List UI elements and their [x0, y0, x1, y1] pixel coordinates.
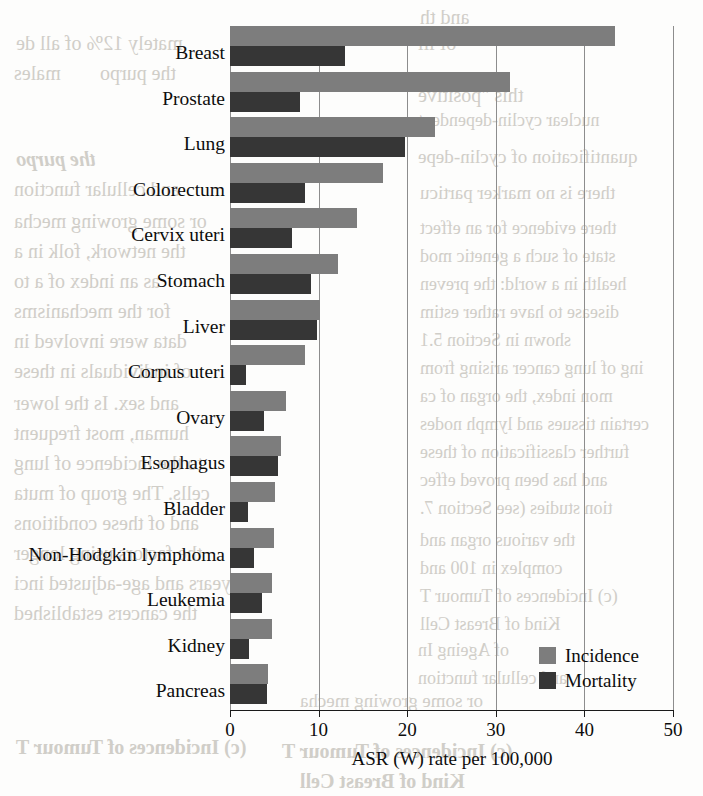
chart-page: and th mately 12% of all de of ill males…: [0, 0, 703, 796]
category-label-esophagus: Esophagus: [141, 453, 226, 473]
bar-mortality-stomach[interactable]: [230, 274, 311, 294]
bar-chart: 01020304050 BreastProstateLungColorectum…: [0, 0, 703, 796]
bar-mortality-pancreas[interactable]: [230, 684, 267, 704]
legend-label-mortality: Mortality: [565, 671, 637, 691]
legend-swatch-incidence-icon: [539, 647, 556, 664]
bar-incidence-bladder[interactable]: [230, 482, 275, 502]
bar-row: Liver: [0, 300, 703, 346]
category-label-prostate: Prostate: [162, 89, 225, 109]
bar-row: Bladder: [0, 482, 703, 528]
legend-swatch-mortality-icon: [539, 672, 556, 689]
bar-row: Prostate: [0, 72, 703, 118]
bar-mortality-breast[interactable]: [230, 46, 345, 66]
bar-row: Non-Hodgkin lymphoma: [0, 528, 703, 574]
bar-incidence-colorectum[interactable]: [230, 163, 383, 183]
bar-incidence-stomach[interactable]: [230, 254, 338, 274]
bar-row: Lung: [0, 117, 703, 163]
bar-mortality-leukemia[interactable]: [230, 593, 262, 613]
x-tick-label-10: 10: [289, 719, 349, 741]
category-label-cervix-uteri: Cervix uteri: [131, 225, 225, 245]
category-label-lung: Lung: [184, 134, 225, 154]
bar-incidence-breast[interactable]: [230, 26, 615, 46]
category-label-stomach: Stomach: [157, 271, 225, 291]
chart-legend: Incidence Mortality: [539, 643, 639, 693]
bar-row: Colorectum: [0, 163, 703, 209]
x-axis-line: [230, 710, 674, 711]
bar-mortality-bladder[interactable]: [230, 502, 248, 522]
bar-incidence-pancreas[interactable]: [230, 664, 268, 684]
category-label-pancreas: Pancreas: [156, 681, 225, 701]
category-label-leukemia: Leukemia: [147, 590, 225, 610]
bar-row: Esophagus: [0, 436, 703, 482]
bar-mortality-ovary[interactable]: [230, 411, 264, 431]
bar-incidence-leukemia[interactable]: [230, 573, 272, 593]
bar-incidence-cervix-uteri[interactable]: [230, 208, 357, 228]
x-tick-label-20: 20: [377, 719, 437, 741]
bar-incidence-lung[interactable]: [230, 117, 435, 137]
x-tick-30: [496, 710, 497, 717]
bar-mortality-kidney[interactable]: [230, 639, 249, 659]
bar-mortality-liver[interactable]: [230, 320, 317, 340]
category-label-kidney: Kidney: [168, 636, 225, 656]
bar-incidence-esophagus[interactable]: [230, 436, 281, 456]
x-tick-20: [407, 710, 408, 717]
bar-row: Corpus uteri: [0, 345, 703, 391]
x-tick-label-50: 50: [643, 719, 703, 741]
bar-incidence-kidney[interactable]: [230, 619, 272, 639]
bar-mortality-prostate[interactable]: [230, 92, 300, 112]
bar-mortality-corpus-uteri[interactable]: [230, 365, 246, 385]
bar-incidence-ovary[interactable]: [230, 391, 286, 411]
category-label-liver: Liver: [183, 317, 225, 337]
category-label-ovary: Ovary: [176, 408, 225, 428]
x-tick-50: [673, 710, 674, 717]
x-tick-label-40: 40: [554, 719, 614, 741]
x-axis-title: ASR (W) rate per 100,000: [230, 748, 674, 770]
bar-incidence-corpus-uteri[interactable]: [230, 345, 305, 365]
bar-mortality-colorectum[interactable]: [230, 183, 305, 203]
bar-row: Stomach: [0, 254, 703, 300]
bar-row: Breast: [0, 26, 703, 72]
x-tick-0: [230, 710, 231, 717]
legend-label-incidence: Incidence: [565, 646, 639, 666]
legend-item-mortality[interactable]: Mortality: [539, 668, 639, 693]
legend-item-incidence[interactable]: Incidence: [539, 643, 639, 668]
bar-mortality-non-hodgkin-lymphoma[interactable]: [230, 548, 254, 568]
category-label-bladder: Bladder: [163, 499, 225, 519]
category-label-breast: Breast: [175, 43, 225, 63]
bar-incidence-prostate[interactable]: [230, 72, 510, 92]
x-tick-40: [584, 710, 585, 717]
category-label-non-hodgkin-lymphoma: Non-Hodgkin lymphoma: [28, 545, 225, 565]
bar-row: Ovary: [0, 391, 703, 437]
bar-mortality-cervix-uteri[interactable]: [230, 228, 292, 248]
category-label-colorectum: Colorectum: [133, 180, 225, 200]
x-tick-label-30: 30: [466, 719, 526, 741]
bar-row: Cervix uteri: [0, 208, 703, 254]
bar-mortality-lung[interactable]: [230, 137, 405, 157]
bar-row: Leukemia: [0, 573, 703, 619]
bar-incidence-non-hodgkin-lymphoma[interactable]: [230, 528, 274, 548]
bar-mortality-esophagus[interactable]: [230, 456, 278, 476]
x-tick-10: [319, 710, 320, 717]
x-tick-label-0: 0: [200, 719, 260, 741]
bar-incidence-liver[interactable]: [230, 300, 320, 320]
category-label-corpus-uteri: Corpus uteri: [128, 362, 225, 382]
